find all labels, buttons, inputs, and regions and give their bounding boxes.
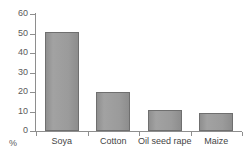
y-axis-tick-label-wrap: 60	[0, 9, 28, 18]
bar	[45, 32, 79, 131]
y-axis-tick	[30, 112, 35, 113]
bar	[148, 110, 182, 131]
y-axis-tick-label-wrap: 0	[0, 126, 28, 135]
y-axis-tick	[30, 92, 35, 93]
y-axis-tick-label: 40	[6, 48, 28, 57]
y-axis-tick-label: 20	[6, 87, 28, 96]
y-axis-tick	[30, 34, 35, 35]
bars-group	[36, 14, 242, 131]
y-axis-tick-label: 60	[6, 9, 28, 18]
bar	[96, 92, 130, 131]
y-axis-tick	[30, 73, 35, 74]
y-axis-tick-label-wrap: 50	[0, 29, 28, 38]
y-axis-tick-label-wrap: 20	[0, 87, 28, 96]
y-axis-unit-label: %	[9, 139, 17, 148]
y-axis-tick-label: 0	[6, 126, 28, 135]
bar	[199, 113, 233, 131]
bar-chart: 0102030405060 SoyaCottonOil seed rapeMai…	[0, 0, 250, 158]
y-axis-tick-label-wrap: 40	[0, 48, 28, 57]
y-axis-tick-label: 30	[6, 68, 28, 77]
y-axis-tick-label: 50	[6, 29, 28, 38]
y-axis-tick-label-wrap: 10	[0, 107, 28, 116]
x-axis-category-label: Maize	[176, 136, 250, 147]
y-axis-tick-label: 10	[6, 107, 28, 116]
y-axis-tick	[30, 53, 35, 54]
y-axis-tick	[30, 14, 35, 15]
y-axis-tick	[30, 131, 35, 132]
y-axis-tick-label-wrap: 30	[0, 68, 28, 77]
